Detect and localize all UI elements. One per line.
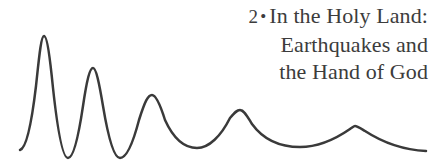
chapter-title-line-3: the Hand of God bbox=[160, 58, 428, 85]
chapter-title-line-1: 2•In the Holy Land: bbox=[160, 2, 428, 31]
chapter-number: 2 bbox=[249, 6, 259, 27]
chapter-heading: 2•In the Holy Land: Earthquakes and the … bbox=[160, 2, 428, 85]
chapter-title-line-2: Earthquakes and bbox=[160, 31, 428, 58]
chapter-opening-page: 2•In the Holy Land: Earthquakes and the … bbox=[0, 0, 444, 166]
chapter-title-line-1-text: In the Holy Land: bbox=[269, 3, 428, 28]
chapter-bullet-separator: • bbox=[258, 7, 269, 26]
